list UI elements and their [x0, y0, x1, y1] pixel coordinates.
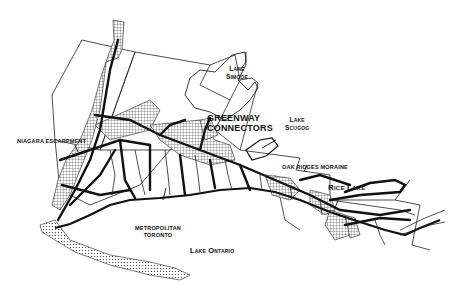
label-greenway-line1: GREENWAY [207, 113, 273, 123]
label-greenway-line2: CONNECTORS [207, 123, 273, 133]
label-metro-line2: TORONTO [135, 232, 181, 239]
label-oak-ridges-moraine: OAK RIDGES MORAINE [282, 164, 348, 170]
label-lake-simcoe-line1: Lake [226, 65, 248, 73]
label-greenway-connectors: GREENWAY CONNECTORS [207, 113, 273, 133]
label-metropolitan-toronto: METROPOLITAN TORONTO [135, 225, 181, 239]
label-rice-lake: Rice Lake [328, 183, 365, 192]
greenway-map [0, 0, 460, 300]
label-lake-scugog-line2: Scugog [285, 124, 309, 132]
lake-ontario-shoreline [55, 188, 440, 235]
label-lake-ontario: Lake Ontario [190, 247, 234, 255]
label-niagara-escarpment: NIAGARA ESCARPMENT [17, 138, 86, 144]
label-lake-simcoe: Lake Simcoe [226, 65, 248, 81]
label-lake-scugog-line1: Lake [285, 116, 309, 124]
label-lake-scugog: Lake Scugog [285, 116, 309, 132]
label-metro-line1: METROPOLITAN [135, 225, 181, 232]
label-lake-simcoe-line2: Simcoe [226, 73, 248, 81]
